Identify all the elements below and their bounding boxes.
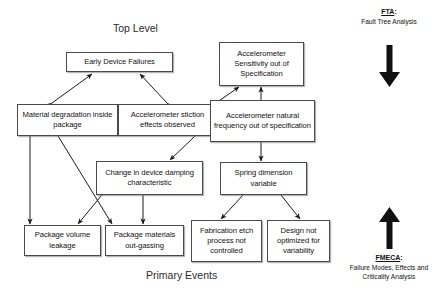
fta-colon: : <box>394 8 396 15</box>
node-label: Accelerometer Sensitivity out of Specifi… <box>222 49 301 79</box>
node-label: Material degradation inside package <box>20 110 115 130</box>
node-spring-dimension[interactable]: Spring dimension variable <box>220 162 307 195</box>
fta-abbrev-line: FTA: <box>337 7 440 16</box>
node-accelerometer-stiction[interactable]: Accelerometer stiction effects observed <box>118 104 217 136</box>
node-label: Accelerometer natural frequency out of s… <box>213 111 312 131</box>
node-label: Change in device damping characteristic <box>99 168 200 188</box>
fmeca-abbrev-line: FMECA: <box>337 253 440 262</box>
node-early-device-failures[interactable]: Early Device Failures <box>66 52 173 72</box>
node-material-degradation[interactable]: Material degradation inside package <box>17 104 118 136</box>
link-damping-to-volume-leakage <box>78 196 101 224</box>
node-accelerometer-sensitivity[interactable]: Accelerometer Sensitivity out of Specifi… <box>219 42 304 86</box>
down-arrow-icon <box>366 45 410 89</box>
link-material-to-early <box>52 74 92 103</box>
link-stiction-to-damping <box>170 136 195 160</box>
node-package-outgassing[interactable]: Package materials out-gassing <box>105 225 184 256</box>
fmeca-abbrev: FMECA <box>375 254 400 261</box>
link-spring-to-design <box>281 195 300 219</box>
node-design-not-optimized[interactable]: Design not optimized for variability <box>267 220 330 262</box>
node-label: Accelerometer stiction effects observed <box>121 110 214 130</box>
link-spring-to-fabrication <box>221 195 243 219</box>
node-label: Design not optimized for variability <box>270 226 327 256</box>
node-fabrication-etch[interactable]: Fabrication etch process not controlled <box>191 220 262 262</box>
node-package-volume-leakage[interactable]: Package volume leakage <box>24 225 101 256</box>
node-damping-change[interactable]: Change in device damping characteristic <box>96 161 203 195</box>
node-label: Package materials out-gassing <box>108 230 181 250</box>
fmeca-expansion-line1: Failure Modes, Effects <box>350 264 415 271</box>
fta-abbrev: FTA <box>381 8 394 15</box>
side-note-fta: FTA: Fault Tree Analysis <box>337 7 440 27</box>
node-label: Package volume leakage <box>27 230 98 250</box>
band-label-primary-events: Primary Events <box>146 269 217 281</box>
up-arrow-icon <box>366 207 410 251</box>
side-note-fmeca: FMECA: Failure Modes, Effects and Critic… <box>337 253 440 282</box>
node-accelerometer-natural-frequency[interactable]: Accelerometer natural frequency out of s… <box>210 100 315 142</box>
node-label: Early Device Failures <box>84 57 155 67</box>
fmeca-colon: : <box>400 254 402 261</box>
node-label: Fabrication etch process not controlled <box>194 226 259 256</box>
link-stiction-to-early <box>140 74 167 103</box>
fault-tree-diagram: Top Level Primary Events Early Device Fa… <box>0 0 440 304</box>
fta-expansion: Fault Tree Analysis <box>361 18 417 25</box>
node-label: Spring dimension variable <box>223 168 304 188</box>
band-label-top-level: Top Level <box>113 22 158 34</box>
